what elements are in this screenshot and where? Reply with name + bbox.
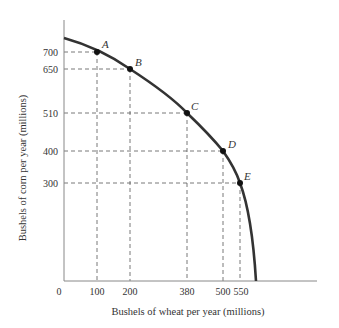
x-tick-0: 0	[57, 286, 62, 297]
x-tick-550: 550	[234, 286, 249, 297]
dashed-guides	[64, 52, 240, 281]
y-tick-510: 510	[43, 108, 58, 119]
x-tick-380: 380	[180, 286, 195, 297]
point-label-c: C	[191, 100, 199, 112]
y-tick-700: 700	[43, 47, 58, 58]
point-label-a: A	[101, 38, 109, 50]
x-axis-label: Bushels of wheat per year (millions)	[111, 306, 265, 318]
point-label-e: E	[243, 170, 251, 182]
y-tick-400: 400	[43, 146, 58, 157]
data-points	[94, 49, 243, 186]
x-tick-100: 100	[90, 286, 105, 297]
y-tick-300: 300	[43, 178, 58, 189]
y-axis-label: Bushels of corn per year (millions)	[17, 94, 29, 241]
ppf-curve	[64, 38, 256, 281]
point-label-d: D	[227, 138, 236, 150]
point-label-b: B	[135, 56, 142, 68]
y-tick-650: 650	[43, 64, 58, 75]
x-tick-200: 200	[123, 286, 138, 297]
ppf-chart: A B C D E 700 650 510 400 300 0 100 200 …	[0, 0, 339, 328]
x-tick-500: 500	[216, 286, 231, 297]
